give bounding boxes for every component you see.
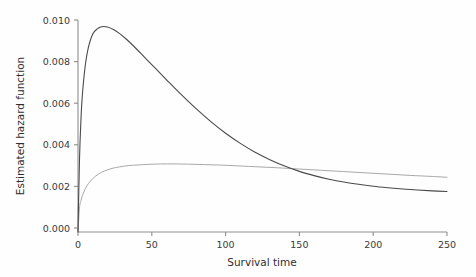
y-tick-label: 0.000 [43, 223, 70, 234]
hazard-curve-plateau [78, 164, 447, 232]
y-tick-label: 0.008 [43, 56, 70, 67]
hazard-function-figure: 0.010 0.008 0.006 0.004 0.002 0.000 Esti… [0, 0, 476, 277]
y-tick-label: 0.002 [43, 181, 70, 192]
y-tick-label: 0.006 [43, 98, 70, 109]
x-tick-label: 250 [438, 239, 456, 250]
y-tick-label: 0.004 [43, 139, 70, 150]
x-tick-label: 50 [146, 239, 158, 250]
hazard-function-chart: 0.010 0.008 0.006 0.004 0.002 0.000 Esti… [0, 0, 476, 277]
y-axis-ticks [74, 20, 78, 228]
hazard-curve-peaked [78, 27, 447, 232]
x-axis: 0 50 100 150 200 250 Survival time [75, 232, 456, 268]
x-tick-label: 150 [290, 239, 308, 250]
x-tick-label: 100 [217, 239, 235, 250]
x-axis-tick-labels: 0 50 100 150 200 250 [75, 239, 456, 250]
y-tick-label: 0.010 [43, 15, 70, 26]
series-group [78, 27, 447, 232]
y-axis-title: Estimated hazard function [14, 57, 26, 195]
x-tick-label: 200 [364, 239, 382, 250]
x-axis-ticks [78, 232, 447, 236]
x-axis-title: Survival time [227, 256, 296, 268]
y-axis: 0.010 0.008 0.006 0.004 0.002 0.000 Esti… [14, 15, 78, 234]
x-tick-label: 0 [75, 239, 81, 250]
y-axis-tick-labels: 0.010 0.008 0.006 0.004 0.002 0.000 [43, 15, 70, 234]
